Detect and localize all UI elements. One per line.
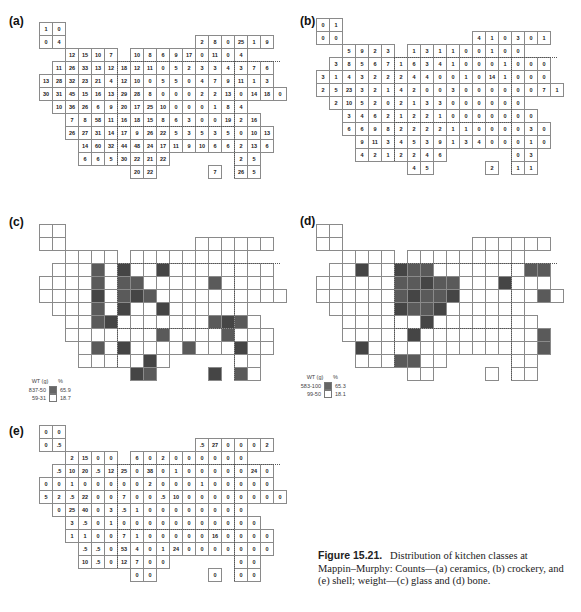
grid-cell: 2 — [394, 96, 408, 110]
structure-boundary-line — [394, 57, 395, 161]
grid-cell: 13 — [221, 87, 235, 101]
grid-cell — [394, 276, 408, 290]
structure-boundary-line — [117, 263, 118, 367]
grid-cell — [143, 328, 157, 342]
grid-cell: 13 — [39, 74, 53, 88]
grid-cell: 0 — [234, 555, 248, 569]
grid-cell: 6 — [260, 61, 274, 75]
grid-cell — [78, 315, 92, 329]
grid-cell — [195, 289, 209, 303]
grid-cell — [342, 263, 356, 277]
grid-cell: 4 — [195, 74, 209, 88]
grid-cell: 9 — [130, 126, 144, 140]
grid-cell: 15 — [78, 87, 92, 101]
grid-cell: 0 — [195, 529, 209, 543]
grid-cell: 0 — [169, 529, 183, 543]
grid-cell — [208, 328, 222, 342]
structure-boundary-line — [511, 263, 512, 380]
grid-cell: 0 — [247, 555, 261, 569]
grid-cell — [78, 354, 92, 368]
legend-item: 583-10065.3 — [297, 382, 346, 390]
grid-cell: 0 — [472, 122, 486, 136]
grid-cell: 7 — [65, 113, 79, 127]
grid-cell: 5 — [355, 57, 369, 71]
grid-cell — [511, 237, 525, 251]
grid-cell: 2 — [143, 477, 157, 491]
grid-cell: 0 — [182, 74, 196, 88]
grid-cell: 0 — [485, 109, 499, 123]
grid-cell: 1 — [130, 503, 144, 517]
structure-boundary-line — [117, 126, 234, 127]
grid-cell — [394, 328, 408, 342]
grid-cell — [117, 341, 131, 355]
grid-cell: 1 — [329, 70, 343, 84]
figure-caption: Figure 15.21. Distribution of kitchen cl… — [318, 549, 568, 588]
grid-cell: 0 — [39, 35, 53, 49]
grid-cell — [355, 263, 369, 277]
grid-cell — [472, 341, 486, 355]
grid-cell: 12 — [117, 555, 131, 569]
grid-cell: 3 — [420, 135, 434, 149]
grid-cell — [355, 328, 369, 342]
grid-cell: 2 — [368, 83, 382, 97]
grid-cell: 0 — [182, 490, 196, 504]
grid-cell: 8 — [143, 87, 157, 101]
grid-cell — [234, 237, 248, 251]
grid-cell: 4 — [221, 61, 235, 75]
grid-cell: 0 — [498, 109, 512, 123]
grid-cell: 3 — [524, 122, 538, 136]
grid-cell: 15 — [78, 48, 92, 62]
grid-cell: 0 — [130, 516, 144, 530]
grid-cell: 7 — [117, 529, 131, 543]
grid-cell — [117, 315, 131, 329]
grid-cell — [433, 354, 447, 368]
legend-header-percent: % — [333, 374, 338, 382]
grid-cell — [329, 276, 343, 290]
grid-cell: 22 — [78, 490, 92, 504]
grid-cell: 0 — [39, 438, 53, 452]
grid-cell: 0 — [234, 490, 248, 504]
grid-cell — [156, 276, 170, 290]
grid-cell: 0 — [117, 477, 131, 491]
grid-cell: 2 — [368, 44, 382, 58]
grid-cell: 0 — [182, 516, 196, 530]
grid-cell — [156, 354, 170, 368]
grid-cell — [459, 328, 473, 342]
grid-cell — [78, 289, 92, 303]
grid-cell: 0 — [260, 477, 274, 491]
grid-cell: 0 — [273, 87, 287, 101]
grid-cell: 5 — [420, 161, 434, 175]
grid-cell — [381, 302, 395, 316]
grid-cell — [368, 328, 382, 342]
grid-cell — [104, 315, 118, 329]
grid-cell: 6 — [260, 139, 274, 153]
grid-cell — [394, 354, 408, 368]
grid-cell — [130, 302, 144, 316]
grid-cell: 7 — [117, 490, 131, 504]
legend-swatch — [324, 382, 332, 390]
grid-cell: 0 — [420, 83, 434, 97]
grid-cell — [381, 354, 395, 368]
grid-cell: 23 — [78, 74, 92, 88]
grid-cell — [182, 263, 196, 277]
grid-cell — [329, 263, 343, 277]
grid-cell: 0 — [39, 425, 53, 439]
grid-cell: 1 — [511, 161, 525, 175]
grid-cell — [459, 341, 473, 355]
legend-header: WT (g)% — [22, 378, 71, 386]
grid-cell — [511, 250, 525, 264]
grid-cell: 1 — [433, 44, 447, 58]
grid-cell — [381, 315, 395, 329]
grid-cell: 5 — [104, 152, 118, 166]
grid-cell: 28 — [130, 87, 144, 101]
grid-cell — [550, 289, 564, 303]
grid-cell — [221, 237, 235, 251]
grid-cell: 3 — [342, 109, 356, 123]
grid-cell — [407, 250, 421, 264]
grid-cell — [420, 302, 434, 316]
grid-cell: 2 — [182, 61, 196, 75]
grid-cell: 0 — [247, 477, 261, 491]
grid-cell: 0 — [143, 542, 157, 556]
grid-cell: 10 — [130, 74, 144, 88]
grid-cell — [169, 289, 183, 303]
